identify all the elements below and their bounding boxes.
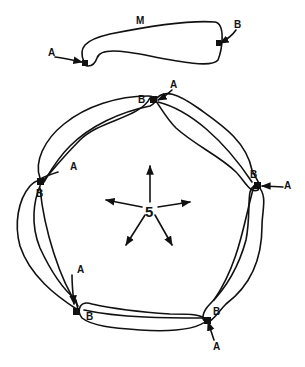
left-site-a-label: A (70, 162, 77, 172)
right-site-a-label: A (284, 181, 291, 191)
right-site-b-label: B (250, 170, 257, 180)
ring-site-top (150, 96, 157, 103)
monomer-site-b (216, 40, 221, 46)
left-site-b-label: B (36, 189, 43, 199)
bottom-left-site-a-label: A (77, 265, 84, 275)
bottom-right-site-a-label: A (213, 342, 220, 352)
subunit-top-right (155, 94, 259, 191)
monomer-site-a (82, 60, 88, 66)
pentamer-assembly-diagram: M A B A B A B A B A B A B 5 (0, 0, 305, 367)
monomer-site-a-label: A (48, 48, 55, 58)
ring-site-bottom-left (73, 308, 80, 315)
top-site-b-label: B (138, 95, 145, 105)
subunit-right-bottom (203, 185, 264, 322)
monomer-site-b-label: B (234, 20, 241, 30)
ring-site-left (37, 178, 44, 185)
ring-site-right (254, 182, 261, 189)
bottom-right-site-b-label: B (213, 307, 220, 317)
diagram-drawing (0, 0, 305, 367)
ring-site-bottom-right (204, 317, 211, 324)
monomer-outline (82, 22, 222, 66)
monomer-label: M (136, 16, 144, 26)
symmetry-number: 5 (145, 204, 153, 219)
subunit-left-top (38, 96, 155, 182)
bottom-left-site-b-label: B (86, 312, 93, 322)
top-site-a-label: A (170, 80, 177, 90)
